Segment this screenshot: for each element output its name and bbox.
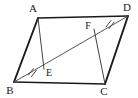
edge-BC <box>14 82 105 84</box>
segment-CF <box>94 29 105 84</box>
vertex-label-D: D <box>123 1 131 13</box>
edge-AD <box>38 16 128 18</box>
segment-AE <box>38 18 44 69</box>
geometry-figure: A D B C E F <box>0 0 138 98</box>
point-label-E: E <box>46 67 52 78</box>
vertex-label-C: C <box>100 85 107 97</box>
vertex-label-A: A <box>29 2 37 14</box>
geometry-canvas: A D B C E F <box>0 0 138 98</box>
point-label-F: F <box>85 20 91 31</box>
edge-DC <box>105 16 128 84</box>
vertex-label-B: B <box>6 84 13 96</box>
